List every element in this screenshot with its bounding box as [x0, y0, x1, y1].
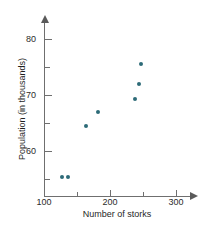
x-axis-title: Number of storks	[44, 209, 190, 219]
x-axis-arrow-icon	[190, 192, 198, 200]
y-tick-70	[45, 95, 52, 96]
data-point	[96, 110, 100, 114]
x-tick-250	[143, 192, 144, 197]
x-tick-label-200: 200	[95, 198, 125, 207]
data-point	[139, 62, 143, 66]
y-tick-75	[45, 67, 50, 68]
y-tick-65	[45, 123, 50, 124]
x-tick-300	[176, 190, 177, 197]
x-tick-150	[77, 192, 78, 197]
data-point	[60, 175, 64, 179]
y-tick-80	[45, 39, 52, 40]
y-tick-55	[45, 179, 50, 180]
y-axis-line	[44, 22, 45, 197]
x-tick-label-100: 100	[29, 198, 59, 207]
x-tick-200	[110, 190, 111, 197]
data-point	[84, 124, 88, 128]
data-point	[66, 175, 70, 179]
y-axis-title: Population (in thousands)	[17, 39, 27, 179]
x-tick-label-300: 300	[161, 198, 191, 207]
scatter-chart: 80 70 60 100 200 300 Population (in thou…	[0, 0, 210, 227]
data-point	[137, 82, 141, 86]
data-point	[133, 97, 137, 101]
y-axis-arrow-icon	[41, 15, 49, 23]
x-tick-100	[44, 190, 45, 197]
y-tick-60	[45, 151, 52, 152]
